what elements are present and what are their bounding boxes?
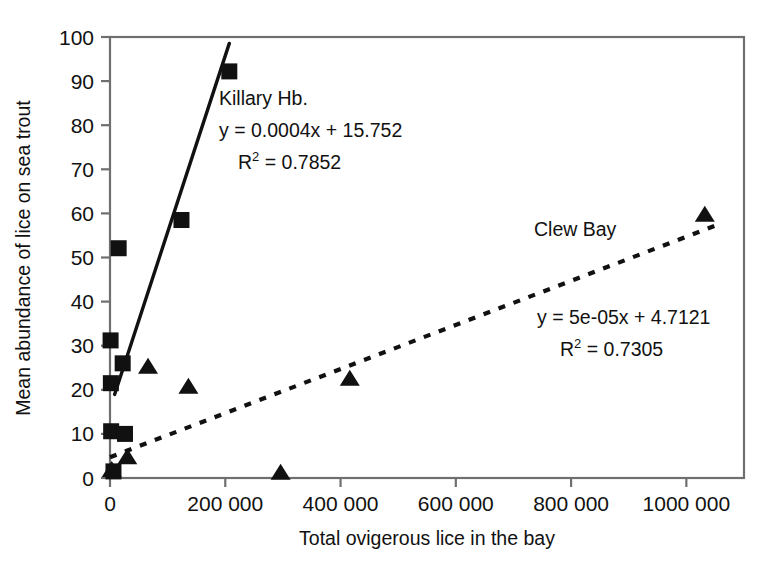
killary-r-prefix: R (238, 151, 252, 173)
x-tick-label: 200 000 (187, 492, 263, 515)
y-tick-label: 40 (71, 290, 94, 313)
y-tick-label: 0 (82, 467, 94, 490)
y-tick-label: 10 (71, 422, 94, 445)
scatter-plot-svg: 0102030405060708090100 0200 000400 00060… (0, 0, 774, 578)
killary-equation: y = 0.0004x + 15.752 (219, 119, 402, 141)
y-axis-title: Mean abundance of lice on sea trout (12, 100, 34, 416)
y-tick-label: 50 (71, 246, 94, 269)
y-tick-label: 60 (71, 202, 94, 225)
x-axis-title: Total ovigerous lice in the bay (299, 527, 555, 549)
chart-figure: 0102030405060708090100 0200 000400 00060… (0, 0, 774, 578)
clew-equation: y = 5e-05x + 4.7121 (537, 306, 710, 328)
x-tick-label: 400 000 (303, 492, 379, 515)
marker-square-killary-hb (103, 375, 119, 391)
clew-r-value: = 0.7305 (581, 338, 663, 360)
marker-square-killary-hb (103, 332, 119, 348)
marker-square-killary-hb (115, 355, 131, 371)
y-tick-label: 100 (59, 26, 94, 49)
marker-square-killary-hb (103, 423, 119, 439)
killary-r-exponent: 2 (252, 149, 259, 164)
x-tick-label: 800 000 (533, 492, 609, 515)
marker-square-killary-hb (117, 426, 133, 442)
x-tick-label: 1000 000 (643, 492, 731, 515)
clew-r-prefix: R (560, 338, 574, 360)
y-tick-label: 20 (71, 378, 94, 401)
x-tick-label: 0 (104, 492, 116, 515)
y-tick-label: 30 (71, 334, 94, 357)
y-tick-label: 90 (71, 70, 94, 93)
killary-series-label: Killary Hb. (219, 87, 308, 109)
x-tick-label: 600 000 (418, 492, 494, 515)
marker-square-killary-hb (221, 63, 237, 79)
y-tick-label: 80 (71, 114, 94, 137)
clew-r-exponent: 2 (574, 336, 581, 351)
y-tick-label: 70 (71, 158, 94, 181)
marker-square-killary-hb (173, 212, 189, 228)
killary-r-value: = 0.7852 (259, 151, 341, 173)
marker-square-killary-hb (111, 240, 127, 256)
clew-series-label: Clew Bay (534, 218, 617, 240)
